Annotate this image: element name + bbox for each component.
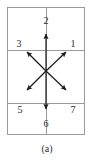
arrow-direction-5 bbox=[27, 71, 46, 90]
figure-caption: (a) bbox=[0, 143, 94, 155]
direction-diagram-figure: 2 3 1 5 7 6 (a) bbox=[0, 0, 94, 168]
direction-label-3: 3 bbox=[13, 39, 25, 49]
direction-label-6: 6 bbox=[40, 119, 52, 129]
direction-label-1: 1 bbox=[67, 39, 79, 49]
arrow-direction-3 bbox=[27, 52, 46, 71]
arrow-direction-7 bbox=[46, 71, 66, 90]
direction-label-7: 7 bbox=[67, 105, 79, 115]
direction-label-5: 5 bbox=[14, 105, 26, 115]
direction-label-2: 2 bbox=[40, 16, 52, 26]
arrow-direction-1 bbox=[46, 52, 66, 71]
